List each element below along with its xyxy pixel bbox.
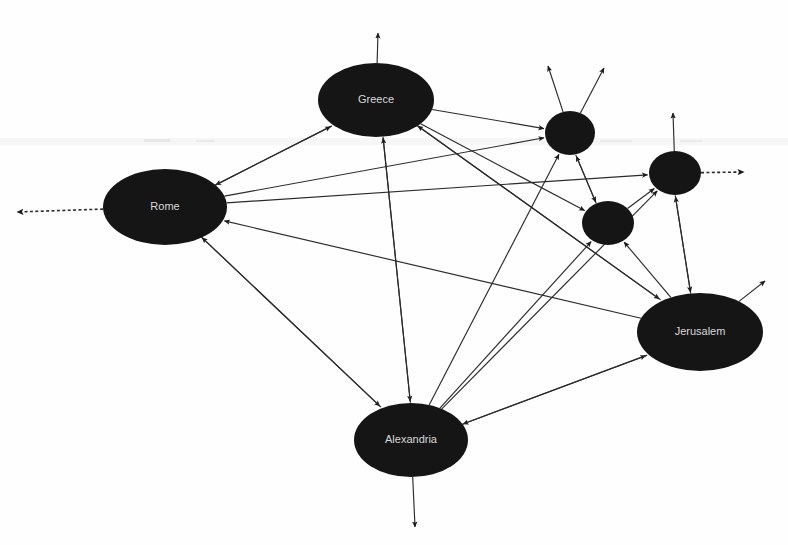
edge-jerusalem-to-node-b <box>624 242 671 297</box>
node-jerusalem[interactable]: Jerusalem <box>637 293 763 371</box>
node-shape-node-b[interactable] <box>582 201 634 245</box>
alexandria-down-stub <box>413 477 415 527</box>
edge-jerusalem-to-rome <box>224 221 641 318</box>
rome-left-stub <box>17 209 103 212</box>
jerusalem-upright-stub <box>739 281 765 301</box>
network-diagram-canvas: RomeGreeceAlexandriaJerusalem <box>0 0 788 545</box>
node-shape-alexandria[interactable] <box>354 403 468 477</box>
edge-layer <box>201 110 691 425</box>
node-shape-greece[interactable] <box>318 63 434 137</box>
edge-node-c-to-jerusalem <box>675 195 690 292</box>
node-alexandria[interactable]: Alexandria <box>354 403 468 477</box>
edge-alexandria-to-jerusalem <box>462 356 646 425</box>
node-shape-node-a[interactable] <box>545 111 595 155</box>
edge-greece-to-node-a <box>432 110 544 129</box>
scan-artifacts <box>0 138 788 145</box>
edge-alexandria-to-rome <box>202 238 381 407</box>
greece-up-stub <box>377 33 378 63</box>
node-a-upleft-stub <box>548 66 563 112</box>
node-node-b[interactable] <box>582 201 634 245</box>
node-a-upright-stub <box>580 68 604 113</box>
node-rome[interactable]: Rome <box>103 169 227 245</box>
edge-alexandria-to-node-b <box>440 242 591 409</box>
edge-alexandria-to-node-a <box>429 154 559 405</box>
edge-alexandria-to-greece <box>383 138 410 403</box>
edge-rome-to-node-c <box>227 175 648 203</box>
node-shape-rome[interactable] <box>103 169 227 245</box>
node-greece[interactable]: Greece <box>318 63 434 137</box>
node-c-up-stub <box>673 113 674 151</box>
node-node-a[interactable] <box>545 111 595 155</box>
node-c-right-stub <box>701 172 744 173</box>
node-shape-jerusalem[interactable] <box>637 293 763 371</box>
edge-rome-to-greece <box>214 127 330 186</box>
node-node-c[interactable] <box>649 151 701 195</box>
node-shape-node-c[interactable] <box>649 151 701 195</box>
